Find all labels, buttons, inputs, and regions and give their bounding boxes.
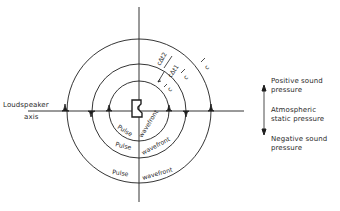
pulse-positive-icon xyxy=(166,105,172,111)
legend-negative-line2: pressure xyxy=(271,144,302,153)
label-wavefront-outer: wavefront xyxy=(141,166,173,181)
label-pulse-middle: Pulse xyxy=(115,140,133,151)
label-pulse-inner: Pulse xyxy=(116,123,134,138)
pulse-positive-icon xyxy=(106,105,112,111)
wavefront-diagram: cΔt2 cΔt1 c c c Pulse wavefront Pulse wa… xyxy=(0,0,340,211)
label-wavefront-middle: wavefront xyxy=(140,135,171,156)
c-tick-outer xyxy=(201,58,205,62)
loudspeaker-icon xyxy=(132,100,142,117)
legend-negative-line1: Negative sound xyxy=(271,135,327,144)
pulse-positive-icon xyxy=(208,104,214,111)
legend-positive-line1: Positive sound xyxy=(271,77,323,86)
label-c-inner: c xyxy=(166,85,174,93)
label-pulse-outer: Pulse xyxy=(112,168,129,177)
arrow-down-icon xyxy=(262,129,266,135)
c-tick-middle xyxy=(181,69,185,73)
legend-static-line2: static pressure xyxy=(271,115,324,124)
axis-label-line1: Loudspeaker xyxy=(3,101,49,110)
label-c-delta-t1: cΔt1 xyxy=(166,63,180,79)
pulse-negative-icon xyxy=(88,111,95,117)
label-c-delta-t2: cΔt2 xyxy=(155,51,168,67)
pulse-negative-icon xyxy=(183,111,189,117)
legend-positive-line2: pressure xyxy=(271,86,302,95)
arrow-up-icon xyxy=(262,85,266,91)
pressure-legend-arrow xyxy=(262,85,266,135)
label-c-middle: c xyxy=(182,73,190,81)
axis-label-line2: axis xyxy=(24,113,38,122)
pulse-positive-icon xyxy=(62,104,69,111)
legend-static-line1: Atmospheric xyxy=(271,106,316,115)
label-c-outer: c xyxy=(203,63,211,71)
